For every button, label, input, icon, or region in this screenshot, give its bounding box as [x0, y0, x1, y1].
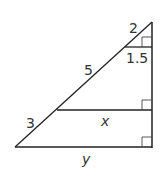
- right-angle-marker-middle: [142, 100, 152, 110]
- label-y: y: [81, 151, 91, 167]
- right-angle-marker-bottom: [142, 137, 152, 147]
- label-low-hyp: 3: [26, 115, 35, 131]
- right-angle-marker-top: [142, 37, 152, 47]
- label-top-leg: 1.5: [126, 50, 148, 66]
- hypotenuse: [15, 22, 152, 147]
- similar-triangles-diagram: 2 1.5 5 3 x y: [0, 0, 160, 177]
- label-top-hyp: 2: [129, 20, 138, 36]
- label-mid-hyp: 5: [84, 62, 93, 78]
- label-x: x: [100, 113, 110, 129]
